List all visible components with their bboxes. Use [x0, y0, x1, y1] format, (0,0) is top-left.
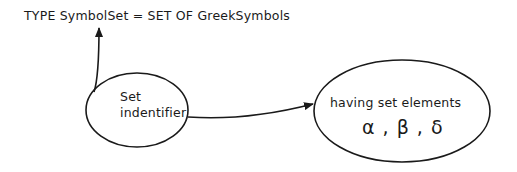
- type-declaration: TYPE SymbolSet = SET OF GreekSymbols: [24, 8, 290, 23]
- arrow-to-elements: [188, 104, 313, 118]
- arrow-to-type-name: [94, 28, 99, 92]
- diagram-canvas: [0, 0, 517, 172]
- set-identifier-label-line1: Set: [120, 89, 141, 104]
- set-elements-label: having set elements: [330, 95, 461, 110]
- set-elements-node: [314, 60, 490, 162]
- greek-symbols: α , β , δ: [362, 116, 444, 138]
- set-identifier-label-line2: indentifier: [120, 105, 186, 120]
